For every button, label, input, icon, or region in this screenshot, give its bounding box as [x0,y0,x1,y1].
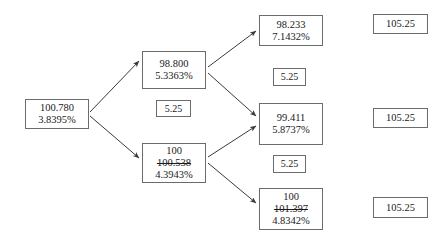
node-line-1: 3.8395% [38,114,76,126]
edge-down-to-mid [208,126,256,157]
node-line-0: 98.800 [160,58,189,70]
node-line-0: 100 [283,191,299,203]
coupon-value: 5.25 [165,103,183,114]
node-line-0: 98.233 [277,19,306,31]
coupon-value: 5.25 [281,71,299,82]
node-line-1: 7.1432% [272,31,310,43]
binomial-tree-diagram: 100.7803.8395%98.8005.3363%100100.5384.3… [0,0,446,249]
node-line-0: 100 [166,145,182,157]
struck-value: 101.397 [274,203,308,215]
edge-up-to-upup [208,31,256,67]
node-line-1: 5.3363% [155,70,193,82]
node-root: 100.7803.8395% [25,99,89,129]
node-up-up: 98.2337.1432% [259,15,323,46]
redemption-value: 105.25 [386,202,415,214]
node-down: 100100.5384.3943% [142,143,206,183]
node-line-2: 4.3943% [155,169,193,181]
node-line-0: 99.411 [277,112,306,124]
redemption-value: 105.25 [386,18,415,30]
edge-root-to-up [90,61,139,112]
struck-value: 100.538 [157,157,191,169]
coupon-box-upper-right: 5.25 [273,68,306,86]
node-line-1: 5.8737% [272,124,310,136]
node-middle: 99.4115.8737% [259,103,323,145]
node-line-0: 100.780 [40,102,74,114]
node-up: 98.8005.3363% [142,51,206,89]
edge-down-to-downdown [208,163,256,203]
edge-up-to-mid [208,73,256,116]
redemption-box-bottom: 105.25 [373,197,428,218]
redemption-box-middle: 105.25 [373,108,428,128]
node-down-down: 100101.3974.8342% [259,188,323,230]
coupon-value: 5.25 [281,158,299,169]
redemption-value: 105.25 [386,112,415,124]
coupon-box-left: 5.25 [156,100,191,117]
redemption-box-top: 105.25 [373,14,428,34]
coupon-box-lower-right: 5.25 [273,155,306,173]
edge-root-to-down [90,116,139,158]
node-line-2: 4.8342% [272,215,310,227]
